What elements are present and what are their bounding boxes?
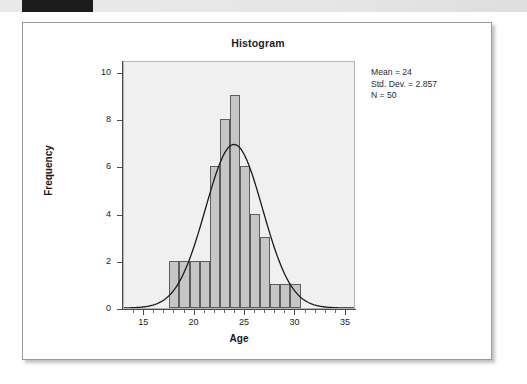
x-axis-tick xyxy=(143,310,144,315)
x-axis-tick xyxy=(294,310,295,315)
y-axis-tick-label: 6 xyxy=(71,161,111,171)
x-axis-minor-tick xyxy=(204,310,205,313)
y-axis-tick-label: 0 xyxy=(71,303,111,313)
x-axis-minor-tick xyxy=(234,310,235,313)
normal-distribution-curve xyxy=(124,62,354,308)
x-axis-title: Age xyxy=(123,333,355,344)
y-axis-title: Frequency xyxy=(43,116,54,226)
x-axis-minor-tick xyxy=(184,310,185,313)
x-axis-minor-tick xyxy=(325,310,326,313)
x-axis-tick-label: 35 xyxy=(330,317,360,327)
y-axis-tick xyxy=(117,167,122,168)
y-axis-tick xyxy=(117,309,122,310)
stat-mean: Mean = 24 xyxy=(371,67,437,79)
x-axis-minor-tick xyxy=(214,310,215,313)
y-axis-tick-label: 8 xyxy=(71,114,111,124)
page-top-strip xyxy=(0,0,527,12)
stat-n: N = 50 xyxy=(371,90,437,102)
chart-title: Histogram xyxy=(23,37,493,49)
y-axis-tick xyxy=(117,215,122,216)
plot-area xyxy=(123,61,355,309)
x-axis-minor-tick xyxy=(315,310,316,313)
y-axis-tick xyxy=(117,120,122,121)
x-axis-tick xyxy=(244,310,245,315)
x-axis-tick xyxy=(345,310,346,315)
x-axis-minor-tick xyxy=(153,310,154,313)
stat-std-dev: Std. Dev. = 2.857 xyxy=(371,79,437,91)
x-axis-minor-tick xyxy=(305,310,306,313)
x-axis-tick-label: 25 xyxy=(229,317,259,327)
statistics-annotation: Mean = 24 Std. Dev. = 2.857 N = 50 xyxy=(371,67,437,102)
x-axis-minor-tick xyxy=(163,310,164,313)
x-axis-tick xyxy=(194,310,195,315)
x-axis-tick-label: 15 xyxy=(128,317,158,327)
y-axis-tick-label: 10 xyxy=(71,67,111,77)
y-axis-line xyxy=(122,61,123,310)
x-axis-minor-tick xyxy=(133,310,134,313)
x-axis-minor-tick xyxy=(284,310,285,313)
x-axis-minor-tick xyxy=(274,310,275,313)
x-axis-minor-tick xyxy=(254,310,255,313)
y-axis-tick-label: 4 xyxy=(71,209,111,219)
x-axis-minor-tick xyxy=(335,310,336,313)
x-axis-minor-tick xyxy=(224,310,225,313)
x-axis-line xyxy=(122,309,356,310)
figure-card: Histogram 0246810 1520253035 Age Frequen… xyxy=(22,22,492,360)
x-axis-minor-tick xyxy=(264,310,265,313)
x-axis-tick-label: 20 xyxy=(179,317,209,327)
x-axis-tick-label: 30 xyxy=(279,317,309,327)
x-axis-minor-tick xyxy=(173,310,174,313)
y-axis-tick xyxy=(117,73,122,74)
page-header-tab xyxy=(22,0,93,12)
y-axis-tick xyxy=(117,262,122,263)
y-axis-tick-label: 2 xyxy=(71,256,111,266)
